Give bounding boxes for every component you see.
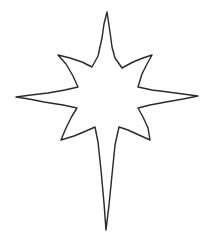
image-canvas	[0, 0, 215, 241]
star-illustration	[0, 0, 215, 241]
